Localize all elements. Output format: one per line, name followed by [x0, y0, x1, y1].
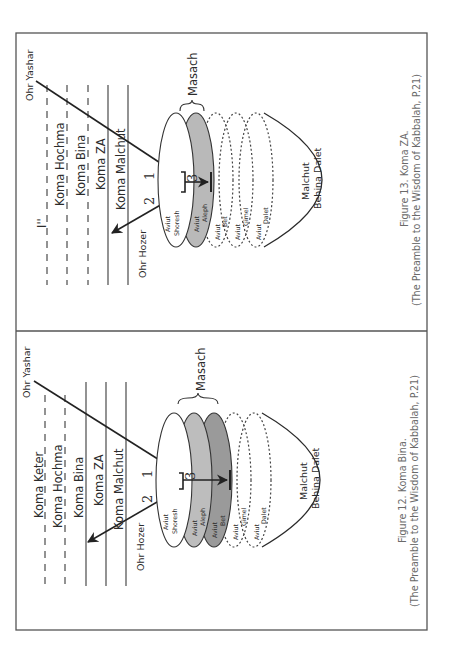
figure-13-koma-za: I'' Koma Hochma Koma Bina Koma ZA Koma M…: [24, 49, 422, 306]
aviut-gimel-label-1: Aviut: [234, 224, 241, 240]
aviut-aleph-label-1: Aviut: [191, 520, 198, 536]
aviut-aleph-label-2: Aleph: [199, 508, 207, 526]
step-3-label: 3: [185, 174, 200, 182]
step-2-label: 2: [142, 197, 157, 205]
step-1-label: 1: [140, 470, 155, 478]
level-label-koma-bina: Koma Bina: [74, 135, 88, 196]
masach-brace: [180, 100, 204, 111]
aviut-gimel-label-1: Aviut: [232, 524, 239, 540]
aviut-dalet-label-2: Dalet: [262, 207, 269, 224]
level-label-koma-bina: Koma Bina: [72, 457, 86, 518]
aviut-shoresh-label-2: Shoresh: [171, 509, 178, 534]
aviut-dalet-label-2: Dalet: [260, 507, 267, 524]
aviut-aleph-label-1: Aviut: [193, 216, 200, 232]
behina-dalet-label: Behina Dalet: [310, 447, 321, 509]
aviut-bet-label-2: Bet: [219, 515, 226, 526]
behina-dalet-label: Behina Dalet: [312, 147, 323, 209]
aviut-shoresh-label-1: Aviut: [164, 216, 171, 232]
level-label-koma-za: Koma ZA: [94, 138, 108, 190]
figure-13-caption-title: Figure 13. Koma ZA.: [399, 130, 410, 227]
ohr-yashar-label: Ohr Yashar: [24, 49, 35, 101]
level-label-koma-hochma: Koma Hochma: [51, 445, 65, 528]
malchut-label: Malchut: [298, 462, 309, 500]
figure-12-koma-bina: Koma Keter Koma Hochma Koma Bina Koma ZA…: [21, 346, 420, 607]
aviut-bet-label-1: Aviut: [214, 224, 221, 240]
level-label-koma-za: Koma ZA: [92, 454, 106, 506]
aviut-gimel-label-2: Gimel: [240, 507, 247, 526]
masach-label: Masach: [186, 52, 200, 96]
level-label-koma-hochma: Koma Hochma: [53, 123, 67, 206]
step-3-label: 3: [183, 472, 198, 480]
masach-brace: [178, 393, 218, 404]
aviut-shoresh-label-1: Aviut: [162, 514, 169, 530]
aviut-bet-label-2: Bet: [221, 216, 228, 227]
level-label-i: I'': [35, 218, 49, 228]
level-label-koma-keter: Koma Keter: [32, 451, 46, 518]
ohr-hozer-label: Ohr Hozer: [135, 523, 146, 571]
step-1-label: 1: [142, 172, 157, 180]
aviut-dalet-label-1: Aviut: [253, 524, 260, 540]
figure-12-caption-title: Figure 12. Koma Bina.: [397, 438, 408, 543]
diagram-page: I'' Koma Hochma Koma Bina Koma ZA Koma M…: [0, 0, 458, 663]
aviut-dalet-label-1: Aviut: [255, 224, 262, 240]
step-2-label: 2: [140, 495, 155, 503]
aviut-aleph-label-2: Aleph: [201, 204, 209, 222]
ohr-yashar-label: Ohr Yashar: [21, 346, 32, 398]
masach-label: Masach: [194, 347, 208, 391]
aviut-bet-label-1: Aviut: [211, 522, 218, 538]
figure-13-caption-source: (The Preamble to the Wisdom of Kabbalah,…: [411, 74, 422, 306]
aviut-gimel-label-2: Gimel: [242, 207, 249, 226]
ohr-hozer-label: Ohr Hozer: [137, 230, 148, 278]
aviut-shoresh-label-2: Shoresh: [173, 211, 180, 236]
level-label-koma-malchut: Koma Malchut: [112, 448, 126, 530]
figure-12-caption-source: (The Preamble to the Wisdom of Kabbalah,…: [409, 375, 420, 607]
malchut-label: Malchut: [300, 162, 311, 200]
